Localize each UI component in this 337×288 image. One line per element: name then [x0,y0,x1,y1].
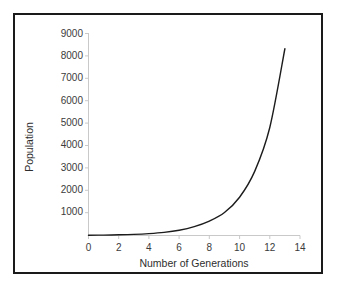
x-tick-label: 8 [207,242,213,253]
y-tick-label: 5000 [61,117,84,128]
x-tick-label: 6 [176,242,182,253]
x-tick-label: 10 [234,242,246,253]
x-tick-label: 12 [264,242,276,253]
y-tick-label: 2000 [61,184,84,195]
chart-figure: Population 9000 8000 7000 6000 5000 4000… [0,0,337,288]
y-tick-label: 1000 [61,206,84,217]
y-tick-label: 8000 [61,50,84,61]
x-axis-tick-labels: 0 2 4 6 8 10 12 14 [86,242,306,253]
y-axis-title: Population [23,122,35,172]
chart-border-frame: Population 9000 8000 7000 6000 5000 4000… [13,13,323,274]
y-tick-label: 3000 [61,162,84,173]
x-tick-label: 0 [86,242,92,253]
y-axis-tick-labels: 9000 8000 7000 6000 5000 4000 3000 2000 … [61,28,84,217]
x-axis-title: Number of Generations [139,257,248,269]
x-axis-tick-marks [89,236,301,240]
x-tick-label: 14 [294,242,306,253]
y-axis-tick-marks [85,34,89,213]
y-tick-label: 6000 [61,95,84,106]
x-tick-label: 2 [116,242,122,253]
y-tick-label: 4000 [61,139,84,150]
exponential-growth-curve [89,49,285,236]
x-tick-label: 4 [146,242,152,253]
y-tick-label: 7000 [61,72,84,83]
population-growth-chart: Population 9000 8000 7000 6000 5000 4000… [15,15,321,272]
y-tick-label: 9000 [61,28,84,39]
